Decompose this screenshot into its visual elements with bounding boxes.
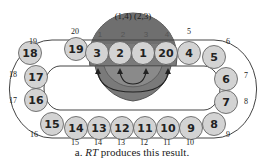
ring-node: 9	[180, 117, 203, 140]
position-label: 9	[226, 130, 230, 139]
position-label: 7	[244, 71, 248, 80]
swap-label: (1,4) (2,3)	[115, 11, 152, 21]
ring-node: 17	[25, 66, 48, 89]
ring-node: 20	[155, 42, 178, 65]
caption-prefix: a.	[75, 146, 85, 158]
node-label: 17	[28, 71, 43, 84]
node-label: 9	[187, 122, 195, 135]
position-label: 18	[9, 70, 17, 79]
ring-node: 12	[111, 117, 134, 140]
ring-node: 8	[203, 113, 226, 136]
ring-node: 15	[41, 113, 64, 136]
slot-label: 3	[144, 30, 149, 39]
caption-suffix: produces this result.	[98, 146, 189, 158]
ring-node: 6	[215, 68, 238, 91]
ring-node: 10	[157, 117, 180, 140]
ring-node: 11	[134, 117, 157, 140]
node-label: 20	[158, 47, 174, 60]
node-label: 1	[139, 47, 147, 60]
node-label: 15	[44, 118, 59, 131]
node-label: 14	[68, 122, 84, 135]
ring-node: 13	[88, 117, 111, 140]
slot-label: 1	[98, 30, 103, 39]
position-label: 16	[30, 130, 38, 139]
node-label: 13	[91, 122, 106, 135]
node-label: 2	[116, 47, 124, 60]
node-label: 18	[22, 47, 37, 60]
slot-label: 4	[165, 30, 170, 39]
position-label: 6	[226, 37, 230, 46]
ring-node: 16	[25, 89, 48, 112]
ring-node: 7	[215, 91, 238, 114]
position-label: 5	[187, 27, 191, 36]
caption-italic: RT	[85, 146, 98, 158]
position-label: 17	[9, 96, 17, 105]
node-label: 6	[222, 73, 230, 86]
node-label: 5	[210, 51, 218, 64]
ring-node: 3	[86, 42, 109, 65]
ring-node: 19	[65, 38, 88, 61]
node-label: 19	[68, 43, 83, 56]
figure-caption: a. RT produces this result.	[0, 146, 264, 158]
ring-node: 1	[132, 42, 155, 65]
ring-node: 2	[109, 42, 132, 65]
node-label: 8	[210, 118, 218, 131]
ring-node: 14	[65, 117, 88, 140]
position-label: 19	[29, 37, 37, 46]
node-label: 7	[222, 96, 230, 109]
node-label: 10	[160, 122, 176, 135]
position-label: 20	[71, 27, 79, 36]
node-label: 12	[114, 122, 129, 135]
node-label: 3	[93, 47, 101, 60]
node-label: 11	[137, 122, 152, 135]
ring-node: 4	[178, 42, 201, 65]
ring-node: 5	[203, 46, 226, 69]
ring-diagram: 1819321204517166715141312111098 20191817…	[0, 0, 264, 162]
node-label: 4	[185, 47, 193, 60]
position-label: 8	[244, 97, 248, 106]
slot-label: 2	[121, 30, 126, 39]
node-label: 16	[28, 94, 44, 107]
